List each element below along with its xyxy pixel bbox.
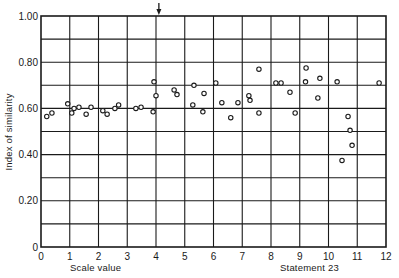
data-point [152,80,156,84]
data-point [72,106,76,110]
y-tick-label: 0.80 [19,57,39,68]
data-point [303,80,307,84]
data-point [304,66,308,70]
x-tick-label: 11 [352,251,363,262]
x-tick-label: 1 [67,251,73,262]
x-axis-label: Scale value [70,262,121,273]
data-point [350,143,354,147]
scatter-chart: 00.200.400.600.801.00 0123456789101112 I… [0,0,399,278]
statement-annotation: Statement 23 [280,262,339,273]
data-point [316,96,320,100]
data-point [257,67,261,71]
x-tick-label: 0 [38,251,44,262]
x-tick-label: 5 [182,251,188,262]
x-tick-label: 6 [211,251,217,262]
arrow-marker-icon [156,3,161,15]
y-axis-label: Index of similarity [3,93,14,170]
data-point [220,100,224,104]
data-point [154,93,158,97]
data-point [346,114,350,118]
data-point [192,83,196,87]
data-point [377,81,381,85]
x-tick-label: 3 [124,251,130,262]
data-point [274,81,278,85]
x-tick-label: 10 [323,251,335,262]
data-point [288,90,292,94]
y-tick-label: 0.40 [19,149,39,160]
data-point [77,105,81,109]
data-point [214,81,218,85]
data-point [66,102,70,106]
data-point [247,93,251,97]
data-point [113,106,117,110]
grid-lines [41,16,386,247]
x-tick-label: 12 [380,251,392,262]
x-tick-label: 7 [239,251,245,262]
data-point [191,103,195,107]
data-point [50,111,54,115]
y-tick-label: 1.00 [19,11,39,22]
data-points [45,66,382,163]
y-tick-label: 0.60 [19,103,39,114]
data-point [45,114,49,118]
data-point [105,112,109,116]
data-point [116,103,120,107]
data-point [175,92,179,96]
x-tick-label: 2 [96,251,102,262]
x-tick-label: 4 [153,251,159,262]
data-point [335,80,339,84]
data-point [248,98,252,102]
data-point [279,81,283,85]
data-point [229,115,233,119]
data-point [84,112,88,116]
data-point [101,109,105,113]
data-point [257,111,261,115]
data-point [172,88,176,92]
data-point [318,76,322,80]
data-point [151,110,155,114]
data-point [139,105,143,109]
data-point [293,111,297,115]
data-point [236,100,240,104]
data-point [348,128,352,132]
x-axis-ticks: 0123456789101112 [38,251,392,262]
x-tick-label: 8 [268,251,274,262]
data-point [70,111,74,115]
y-axis-ticks: 00.200.400.600.801.00 [19,11,39,253]
data-point [89,105,93,109]
data-point [201,110,205,114]
x-tick-label: 9 [297,251,303,262]
data-point [134,106,138,110]
data-point [202,91,206,95]
y-tick-label: 0.20 [19,195,39,206]
data-point [340,158,344,162]
